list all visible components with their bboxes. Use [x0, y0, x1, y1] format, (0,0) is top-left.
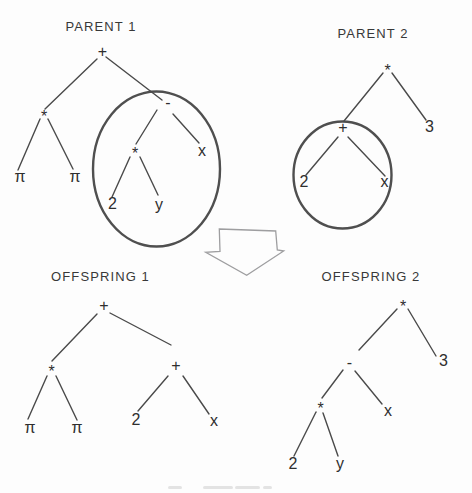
offspring-1-edge [138, 376, 168, 411]
offspring-2-node: 2 [289, 456, 298, 472]
parent-2-edge [348, 137, 385, 176]
crossover-figure: PARENT 1 PARENT 2 OFFSPRING 1 OFFSPRING … [0, 0, 472, 493]
offspring-1-edge [28, 376, 47, 419]
parent-2-edge [306, 137, 338, 175]
offspring-1-edge [183, 376, 209, 414]
parent-1-edge [173, 114, 199, 143]
offspring-1-node: x [210, 413, 218, 429]
parent-1-edge [18, 119, 40, 170]
offspring-1-edge [110, 313, 171, 345]
parent-1-edge [106, 57, 162, 100]
offspring-2-title: OFFSPRING 2 [322, 269, 421, 284]
caption-remnant-mark [168, 486, 182, 489]
parent-1-node: y [155, 197, 163, 213]
parent-1-node: * [41, 109, 47, 125]
offspring-1-node: + [99, 298, 108, 314]
parent-1-node: 2 [108, 196, 117, 212]
parent-1-edge [45, 59, 97, 109]
offspring-1-node: * [48, 364, 54, 380]
parent-1-edge [112, 157, 130, 197]
parent-1-node: x [198, 143, 206, 159]
parent-1-node: π [69, 169, 80, 185]
offspring-2-edge [322, 370, 343, 398]
parent-2-title: PARENT 2 [337, 26, 408, 41]
parent-1-node: π [14, 169, 25, 185]
parent-1-node: + [98, 44, 107, 60]
offspring-1-edge [56, 376, 77, 420]
offspring-1-node: + [171, 358, 180, 374]
parent-1-edge [136, 110, 157, 144]
caption-remnant-mark [235, 486, 260, 489]
offspring-2-node: 3 [439, 353, 448, 369]
parent-2-edge [392, 73, 426, 120]
offspring-2-node: y [336, 456, 344, 472]
offspring-2-node: x [384, 403, 392, 419]
parent-2-node: 2 [300, 174, 309, 190]
parent-2-edge [344, 73, 383, 121]
offspring-2-edge [323, 413, 338, 456]
offspring-2-node: * [317, 401, 323, 417]
parent-2-node: + [338, 120, 347, 136]
crossover-arrow-down-icon [206, 229, 284, 275]
offspring-2-node: * [400, 299, 406, 315]
offspring-2-node: - [347, 355, 352, 371]
offspring-2-edge [408, 309, 436, 356]
offspring-2-edge [294, 412, 316, 456]
offspring-1-node: π [71, 420, 82, 436]
caption-remnant-mark [203, 486, 233, 489]
parent-1-node: - [165, 95, 170, 111]
offspring-1-node: 2 [132, 412, 141, 428]
parent-2-node: 3 [425, 119, 434, 135]
offspring-1-title: OFFSPRING 1 [51, 268, 150, 283]
offspring-2-edge [359, 309, 397, 350]
caption-remnant-mark [263, 486, 272, 489]
parent-1-crossover-ellipse [93, 92, 220, 247]
parent-1-edge [48, 119, 73, 169]
parent-1-node: * [132, 146, 138, 162]
offspring-2-edge [355, 371, 382, 404]
offspring-1-edge [52, 314, 97, 361]
parent-2-node: * [384, 63, 390, 79]
parent-2-node: x [381, 174, 389, 190]
offspring-1-node: π [24, 420, 35, 436]
parent-1-title: PARENT 1 [65, 18, 136, 33]
parent-1-edge [140, 157, 158, 195]
